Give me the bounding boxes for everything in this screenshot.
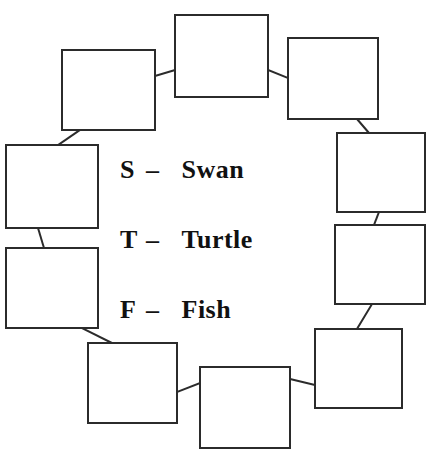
box-bottom-left[interactable] bbox=[88, 343, 177, 423]
box-right-lower[interactable] bbox=[335, 225, 425, 304]
box-left-lower[interactable] bbox=[6, 248, 98, 328]
link-topcenter-topright bbox=[268, 70, 288, 78]
ring-diagram bbox=[0, 0, 431, 454]
link-bottomleft-leftlower bbox=[82, 328, 112, 343]
box-left-upper[interactable] bbox=[6, 145, 98, 228]
box-top-center[interactable] bbox=[175, 15, 268, 97]
box-top-right[interactable] bbox=[288, 38, 378, 119]
link-leftupper-topleft bbox=[58, 130, 80, 145]
link-bottomcenter-bottomleft bbox=[177, 383, 200, 392]
link-topleft-topcenter bbox=[155, 70, 175, 76]
link-bottomright-bottomcenter bbox=[290, 379, 315, 385]
worksheet-canvas: S – Swan T – Turtle F – Fish bbox=[0, 0, 431, 454]
box-layer bbox=[6, 15, 425, 448]
box-bottom-center[interactable] bbox=[200, 367, 290, 448]
box-bottom-right[interactable] bbox=[315, 329, 402, 408]
link-leftlower-leftupper bbox=[38, 228, 44, 248]
link-rightupper-rightlower bbox=[374, 212, 379, 225]
box-right-upper[interactable] bbox=[337, 133, 425, 212]
link-rightlower-bottomright bbox=[357, 304, 372, 329]
link-topright-rightupper bbox=[357, 119, 369, 133]
box-top-left[interactable] bbox=[62, 50, 155, 130]
